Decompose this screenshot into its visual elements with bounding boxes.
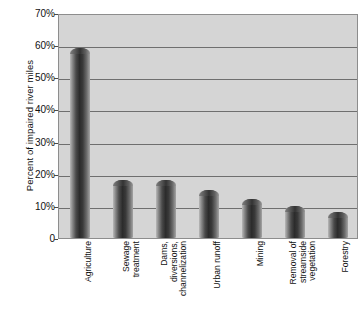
bar — [70, 48, 90, 238]
gridline — [59, 111, 357, 112]
bar-cap — [328, 212, 348, 218]
y-axis-tick-marks — [0, 14, 58, 239]
bar-cap — [70, 48, 90, 54]
bar — [242, 199, 262, 238]
bar-cap — [242, 199, 262, 205]
x-axis-label: Agriculture — [84, 241, 98, 319]
x-axis-label: Dams, diversions, channelization — [160, 241, 174, 319]
x-axis-label: Forestry — [341, 241, 355, 319]
y-axis-tick-mark — [54, 239, 58, 240]
bar-chart: Percent of impaired river miles 70%60%50… — [0, 0, 363, 322]
gridline — [59, 79, 357, 80]
bar — [113, 180, 133, 238]
bar — [285, 206, 305, 238]
x-axis-label: Mining — [256, 241, 270, 319]
x-axis-label: Removal of streamside vegetation — [289, 241, 303, 319]
gridline — [59, 176, 357, 177]
x-axis-label: Sewage treatment — [122, 241, 136, 319]
plot-area — [58, 14, 358, 239]
bar-cap — [113, 180, 133, 186]
bar — [328, 212, 348, 238]
x-axis-label: Urban runoff — [213, 241, 227, 319]
bar-cap — [199, 190, 219, 196]
gridline — [59, 47, 357, 48]
bar — [199, 190, 219, 238]
gridline — [59, 144, 357, 145]
bar-cap — [156, 180, 176, 186]
x-axis-category-labels: AgricultureSewage treatmentDams, diversi… — [58, 241, 358, 322]
bar — [156, 180, 176, 238]
bar-cap — [285, 206, 305, 212]
